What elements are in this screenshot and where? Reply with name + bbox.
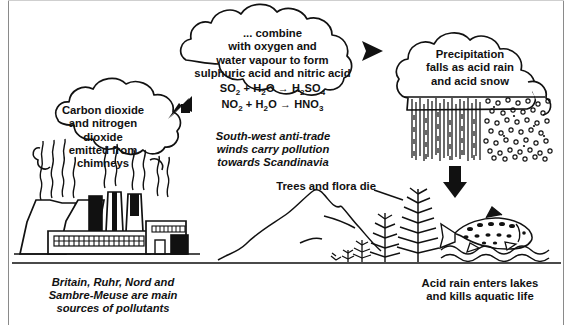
wind-annotation: South-west anti-trade winds carry pollut… bbox=[193, 130, 353, 170]
precip-line-3: and acid snow bbox=[404, 75, 536, 88]
fish-dorsal-fin bbox=[486, 207, 502, 218]
wind-line-3: towards Scandinavia bbox=[193, 156, 353, 169]
lake-caption: Acid rain enters lakes and kills aquatic… bbox=[405, 277, 555, 304]
precip-line-1: Precipitation bbox=[404, 48, 536, 61]
precip-line-2: falls as acid rain bbox=[404, 61, 536, 74]
ground-baseline bbox=[12, 262, 561, 264]
source-caption-line-2: Sambre-Meuse are main bbox=[18, 289, 208, 302]
factory-door bbox=[155, 240, 165, 254]
reaction-line-1: ... combine bbox=[180, 27, 365, 40]
chimney-right-cap bbox=[130, 194, 139, 216]
reaction-line-4: sulphuric acid and nitric acid bbox=[180, 67, 365, 80]
precipitation-cloud-text: Precipitation falls as acid rain and aci… bbox=[404, 48, 536, 88]
dead-conifer-trees bbox=[331, 188, 439, 262]
reaction-line-2: with oxygen and bbox=[180, 40, 365, 53]
equation-nitric: NO2 + H2O → HNO3 bbox=[180, 98, 365, 114]
wind-line-1: South-west anti-trade bbox=[193, 130, 353, 143]
source-caption-line-1: Britain, Ruhr, Nord and bbox=[18, 276, 208, 289]
fish-body bbox=[455, 218, 532, 249]
lake-caption-line-1: Acid rain enters lakes bbox=[405, 277, 555, 290]
arrow-precipitation-down bbox=[443, 166, 467, 198]
conifer-small-group bbox=[331, 240, 371, 262]
emission-line-5: chimneys bbox=[48, 157, 158, 170]
emission-line-4: emitted from bbox=[48, 144, 158, 157]
lake-caption-line-2: and kills aquatic life bbox=[405, 290, 555, 303]
emission-line-2: and nitrogen bbox=[48, 117, 158, 130]
reaction-line-3: water vapour to form bbox=[180, 54, 365, 67]
emission-line-1: Carbon dioxide bbox=[48, 104, 158, 117]
conifer-large bbox=[397, 188, 439, 262]
emission-cloud-text: Carbon dioxide and nitrogen dioxide emit… bbox=[48, 104, 158, 171]
trees-label-leader-line bbox=[374, 190, 403, 200]
fish-eye bbox=[522, 231, 526, 235]
reaction-cloud-text: ... combine with oxygen and water vapour… bbox=[180, 27, 365, 114]
conifer-medium bbox=[370, 213, 400, 262]
trees-flora-label: Trees and flora die bbox=[250, 180, 376, 193]
acid-rain-diagram: Carbon dioxide and nitrogen dioxide emit… bbox=[0, 0, 573, 325]
source-caption-line-3: sources of pollutants bbox=[18, 302, 208, 315]
emission-line-3: dioxide bbox=[48, 131, 158, 144]
source-caption: Britain, Ruhr, Nord and Sambre-Meuse are… bbox=[18, 276, 208, 316]
fish-tail bbox=[440, 224, 455, 248]
wind-line-2: winds carry pollution bbox=[193, 143, 353, 156]
equation-sulphuric: SO2 + H2O → H2SO4 bbox=[180, 82, 365, 98]
arrow-reaction-to-precipitation bbox=[362, 41, 383, 61]
factory-dark-annex bbox=[171, 235, 188, 254]
